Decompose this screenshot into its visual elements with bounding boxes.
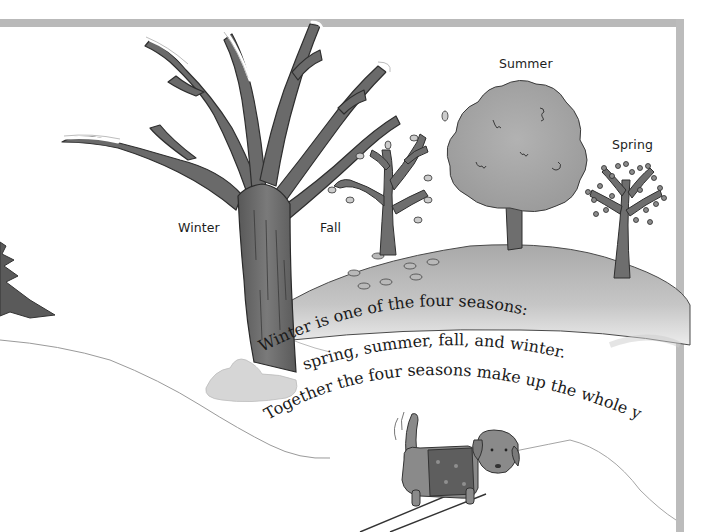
illustration-scene: Winter is one of the four seasons: sprin… [0, 0, 720, 532]
label-winter: Winter [178, 220, 220, 235]
pine-tree [0, 242, 55, 318]
label-summer: Summer [499, 56, 553, 71]
book-page: Winter is one of the four seasons: sprin… [0, 0, 720, 532]
label-fall: Fall [320, 220, 341, 235]
dog [360, 412, 519, 532]
label-spring: Spring [612, 137, 653, 152]
summer-tree [447, 80, 587, 250]
